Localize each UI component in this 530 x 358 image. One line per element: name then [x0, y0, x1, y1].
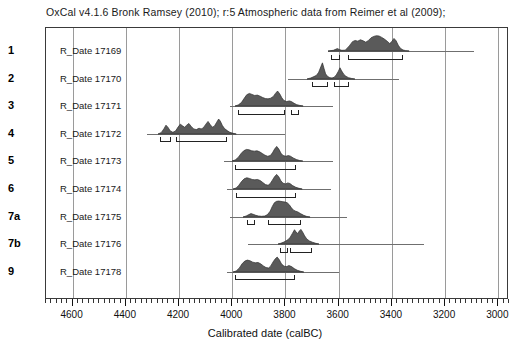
tick-minor-4140 — [194, 299, 195, 303]
tick-minor-3140 — [460, 299, 461, 303]
distribution-1 — [328, 33, 409, 52]
tick-minor-4580 — [77, 299, 78, 303]
tick-label-4600: 4600 — [60, 309, 82, 320]
tick-major-4200 — [178, 299, 179, 306]
tick-minor-4280 — [157, 299, 158, 303]
tick-minor-3780 — [290, 299, 291, 303]
tick-major-3200 — [444, 299, 445, 306]
tick-minor-4480 — [104, 299, 105, 303]
distribution-7a — [243, 199, 310, 218]
tick-minor-3220 — [439, 299, 440, 303]
row-label-4: R_Date 17172 — [60, 127, 121, 138]
tick-label-3200: 3200 — [433, 309, 455, 320]
range-bar-7a-1 — [247, 220, 256, 225]
row-index-7b: 7b — [8, 237, 40, 249]
tick-minor-3700 — [311, 299, 312, 303]
row-label-3: R_Date 17171 — [60, 100, 121, 111]
distribution-2 — [307, 61, 355, 80]
tick-minor-3680 — [316, 299, 317, 303]
tick-minor-4680 — [50, 299, 51, 303]
range-bar-3-2 — [291, 110, 299, 115]
tick-minor-4160 — [189, 299, 190, 303]
tick-minor-4540 — [88, 299, 89, 303]
tick-minor-3560 — [348, 299, 349, 303]
tick-label-4400: 4400 — [114, 309, 136, 320]
range-bar-5-1 — [235, 165, 296, 170]
tick-minor-3040 — [487, 299, 488, 303]
tick-minor-4080 — [210, 299, 211, 303]
tick-minor-4640 — [61, 299, 62, 303]
tick-minor-4660 — [56, 299, 57, 303]
tick-minor-3380 — [396, 299, 397, 303]
tick-minor-3480 — [370, 299, 371, 303]
tick-minor-3160 — [455, 299, 456, 303]
distribution-7b — [278, 226, 319, 245]
range-bar-3-1 — [238, 110, 286, 115]
range-bar-6-1 — [236, 193, 296, 198]
tick-major-4000 — [231, 299, 232, 306]
tick-minor-3520 — [359, 299, 360, 303]
range-bar-1-1 — [331, 55, 340, 60]
tick-minor-3980 — [237, 299, 238, 303]
tick-minor-3820 — [279, 299, 280, 303]
tick-label-3800: 3800 — [273, 309, 295, 320]
tick-minor-4100 — [205, 299, 206, 303]
range-bar-4-1 — [160, 137, 171, 142]
tick-minor-4260 — [162, 299, 163, 303]
tick-minor-4180 — [183, 299, 184, 303]
row-label-7a: R_Date 17175 — [60, 210, 121, 221]
distribution-4 — [158, 116, 236, 135]
tick-minor-3100 — [471, 299, 472, 303]
row-index-5: 5 — [8, 154, 40, 166]
row-index-7a: 7a — [8, 210, 40, 222]
row-index-6: 6 — [8, 182, 40, 194]
tick-minor-3180 — [449, 299, 450, 303]
tick-minor-3920 — [253, 299, 254, 303]
tick-minor-4060 — [215, 299, 216, 303]
tick-minor-3940 — [247, 299, 248, 303]
tick-minor-3360 — [402, 299, 403, 303]
tick-label-3600: 3600 — [327, 309, 349, 320]
tick-minor-3840 — [274, 299, 275, 303]
tick-minor-4420 — [120, 299, 121, 303]
range-bar-9-1 — [235, 275, 294, 280]
row-index-4: 4 — [8, 127, 40, 139]
x-axis-title: Calibrated date (calBC) — [0, 327, 530, 339]
row-label-5: R_Date 17173 — [60, 155, 121, 166]
tick-minor-4120 — [199, 299, 200, 303]
tick-minor-4220 — [173, 299, 174, 303]
row-label-1: R_Date 17169 — [60, 45, 121, 56]
tick-minor-4320 — [146, 299, 147, 303]
row-label-9: R_Date 17178 — [60, 265, 121, 276]
tick-minor-3460 — [375, 299, 376, 303]
tick-major-3600 — [338, 299, 339, 306]
distribution-9 — [233, 254, 304, 273]
tick-label-4000: 4000 — [220, 309, 242, 320]
tick-minor-3120 — [465, 299, 466, 303]
tick-minor-4500 — [98, 299, 99, 303]
tick-minor-4020 — [226, 299, 227, 303]
tick-minor-3020 — [492, 299, 493, 303]
tick-major-4400 — [125, 299, 126, 306]
tick-minor-3420 — [386, 299, 387, 303]
tick-minor-3640 — [327, 299, 328, 303]
range-bar-1-2 — [348, 55, 403, 60]
tick-major-4600 — [72, 299, 73, 306]
tick-minor-4340 — [141, 299, 142, 303]
tick-major-3800 — [284, 299, 285, 306]
distribution-3 — [235, 88, 303, 107]
tick-minor-3620 — [332, 299, 333, 303]
tick-minor-3740 — [300, 299, 301, 303]
tick-minor-4460 — [109, 299, 110, 303]
tick-minor-3060 — [481, 299, 482, 303]
tick-minor-2980 — [503, 299, 504, 303]
range-bar-7b-2 — [290, 248, 312, 253]
range-bar-2-2 — [334, 82, 349, 87]
tick-minor-3760 — [295, 299, 296, 303]
tick-major-3000 — [497, 299, 498, 306]
tick-minor-4440 — [114, 299, 115, 303]
chart-title: OxCal v4.1.6 Bronk Ramsey (2010); r:5 At… — [46, 6, 446, 18]
tick-minor-3540 — [354, 299, 355, 303]
row-index-2: 2 — [8, 72, 40, 84]
tick-minor-3320 — [412, 299, 413, 303]
